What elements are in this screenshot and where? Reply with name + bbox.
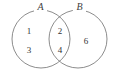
set-a-label: A: [34, 2, 47, 12]
venn-circles-svg: [0, 0, 119, 79]
element-one: 1: [24, 27, 34, 36]
element-six: 6: [81, 37, 91, 46]
set-b-circle: [49, 10, 107, 68]
set-a-circle: [12, 10, 70, 68]
set-b-label: B: [73, 2, 86, 12]
element-four: 4: [55, 46, 65, 55]
element-three: 3: [24, 46, 34, 55]
venn-diagram-figure: A B 1 3 2 4 6: [0, 0, 119, 79]
element-two: 2: [55, 27, 65, 36]
